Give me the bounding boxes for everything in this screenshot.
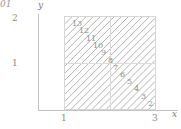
x-axis-line: [38, 110, 178, 111]
y-tick-1: 1: [12, 58, 18, 68]
y-axis-line: [38, 14, 39, 111]
line-number-label: 3: [141, 93, 146, 101]
y-axis-label: y: [38, 0, 43, 10]
line-number-label: 5: [127, 78, 132, 86]
line-number-label: 7: [113, 64, 118, 72]
line-number-label: 6: [120, 71, 125, 79]
plot-figure: 01 y x 2 1 1 3 13121110987654321: [0, 0, 181, 129]
x-tick-1: 1: [61, 113, 67, 123]
line-number-label: 2: [148, 100, 153, 108]
line-number-label: 1: [155, 107, 156, 110]
line-number-label: 9: [101, 49, 106, 57]
hatched-region: 13121110987654321: [64, 16, 156, 110]
line-number-label: 4: [134, 85, 139, 93]
x-tick-3: 3: [152, 113, 158, 123]
corner-label: 01: [0, 0, 11, 9]
y-tick-2: 2: [12, 13, 18, 23]
